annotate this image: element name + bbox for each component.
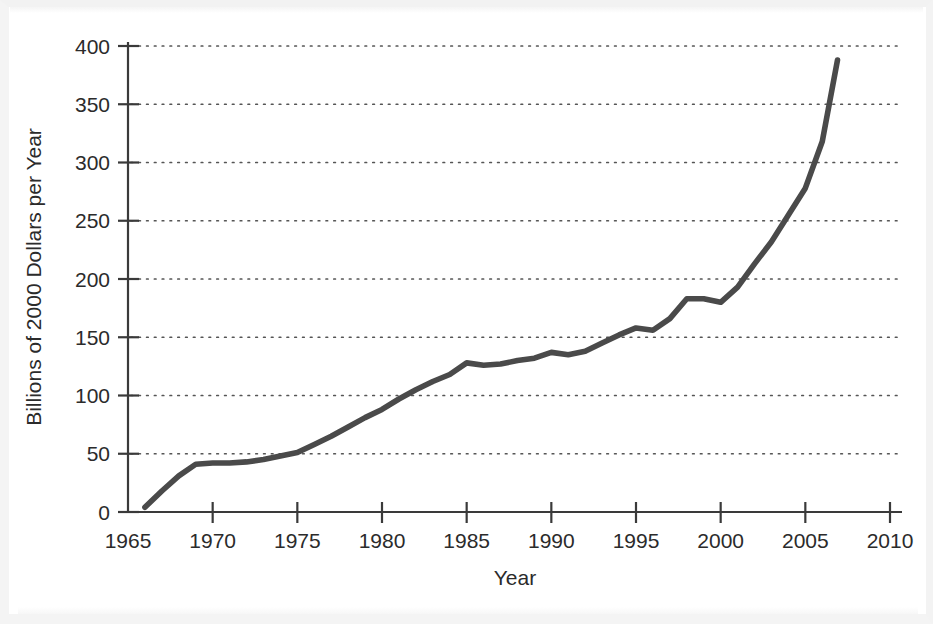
x-tick-label-2000: 2000 [697,529,744,552]
x-tick-label-1975: 1975 [274,529,321,552]
x-tick-label-1980: 1980 [359,529,406,552]
x-axis-tick-labels: 1965197019751980198519901995200020052010 [105,529,914,552]
line-chart: 050100150200250300350400 196519701975198… [0,0,933,624]
y-tick-label-100: 100 [75,384,110,407]
y-axis-tick-labels: 050100150200250300350400 [75,35,110,524]
gridlines [131,46,902,454]
y-axis-title: Billions of 2000 Dollars per Year [22,128,45,426]
y-tick-label-0: 0 [98,501,110,524]
y-tick-label-150: 150 [75,326,110,349]
chart-page: 050100150200250300350400 196519701975198… [0,0,933,624]
y-tick-label-50: 50 [87,442,110,465]
x-tick-label-1995: 1995 [613,529,660,552]
y-tick-label-350: 350 [75,93,110,116]
y-tick-label-250: 250 [75,209,110,232]
y-tick-label-400: 400 [75,35,110,58]
y-tick-label-300: 300 [75,151,110,174]
x-tick-label-1985: 1985 [443,529,490,552]
data-series-line [145,60,838,507]
x-tick-label-1965: 1965 [105,529,152,552]
y-tick-label-200: 200 [75,268,110,291]
x-axis-title: Year [494,566,536,589]
x-tick-label-2010: 2010 [867,529,914,552]
x-tick-label-1990: 1990 [528,529,575,552]
x-tick-label-2005: 2005 [782,529,829,552]
x-tick-label-1970: 1970 [189,529,236,552]
